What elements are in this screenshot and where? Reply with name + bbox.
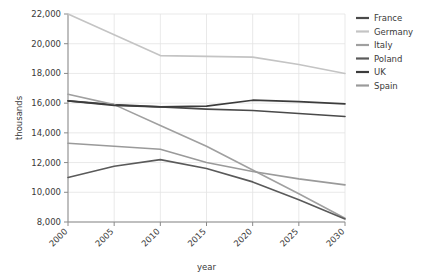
x-tick-label: 2005 — [93, 226, 115, 248]
chart-canvas: 8,00010,00012,00014,00016,00018,00020,00… — [0, 0, 429, 276]
x-tick-label: 2015 — [186, 226, 208, 248]
y-tick-label: 18,000 — [31, 68, 61, 78]
line-chart: 8,00010,00012,00014,00016,00018,00020,00… — [0, 0, 429, 276]
y-axis-tick-labels: 8,00010,00012,00014,00016,00018,00020,00… — [31, 9, 61, 227]
legend-label-poland[interactable]: Poland — [374, 54, 402, 64]
legend-label-spain[interactable]: Spain — [374, 81, 398, 91]
y-tick-label: 12,000 — [31, 158, 61, 168]
legend-label-germany[interactable]: Germany — [374, 27, 413, 37]
y-tick-label: 10,000 — [31, 187, 61, 197]
y-tick-label: 16,000 — [31, 98, 61, 108]
y-tick-marks — [64, 14, 68, 222]
x-tick-label: 2010 — [139, 226, 161, 248]
y-tick-label: 20,000 — [31, 39, 61, 49]
x-axis-title: year — [197, 262, 216, 272]
legend-label-uk[interactable]: UK — [374, 67, 386, 77]
y-axis-title: thousands — [14, 95, 24, 140]
y-tick-label: 14,000 — [31, 128, 61, 138]
x-tick-label: 2020 — [232, 226, 254, 248]
chart-legend: FranceGermanyItalyPolandUKSpain — [356, 13, 413, 91]
gridlines — [68, 14, 345, 222]
x-axis-tick-labels: 2000200520102015202020252030 — [47, 226, 346, 248]
x-tick-label: 2000 — [47, 226, 69, 248]
y-tick-label: 8,000 — [37, 217, 61, 227]
legend-label-france[interactable]: France — [374, 13, 402, 23]
x-tick-marks — [68, 222, 345, 226]
legend-label-italy[interactable]: Italy — [374, 40, 392, 50]
y-tick-label: 22,000 — [31, 9, 61, 19]
x-tick-label: 2030 — [324, 226, 346, 248]
x-tick-label: 2025 — [278, 226, 300, 248]
